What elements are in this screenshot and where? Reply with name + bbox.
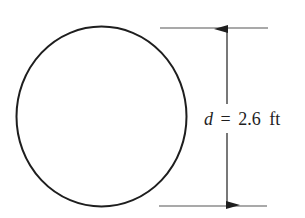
equals-sign: = — [221, 109, 231, 129]
diameter-value: 2.6 — [238, 109, 261, 129]
diameter-unit: ft — [269, 109, 280, 129]
diagram: d = 2.6 ft — [0, 0, 305, 218]
circle-shape — [17, 27, 187, 207]
diameter-label: d = 2.6 ft — [204, 109, 280, 129]
diameter-variable: d — [204, 109, 214, 129]
circle-diameter-figure: d = 2.6 ft — [0, 0, 305, 218]
